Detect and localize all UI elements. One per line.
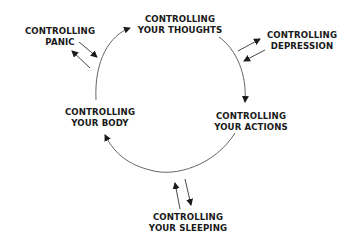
node-line1: CONTROLLING [10,26,110,37]
node-line1: CONTROLLING [201,111,301,122]
node-controlling-panic: CONTROLLING PANIC [10,26,110,47]
node-line1: CONTROLLING [50,107,150,118]
node-line2: YOUR ACTIONS [201,122,301,133]
node-controlling-your-actions: CONTROLLING YOUR ACTIONS [201,111,301,132]
node-line2: YOUR THOUGHTS [130,25,230,36]
node-controlling-your-sleeping: CONTROLLING YOUR SLEEPING [138,212,238,233]
arrow-cycle-to-panic [72,51,90,68]
arc-thoughts-to-actions [219,37,245,102]
node-line2: YOUR SLEEPING [138,223,238,234]
arc-actions-to-body [105,133,235,172]
arrow-depression-to-cycle [244,50,265,61]
node-line2: PANIC [10,37,110,48]
node-line1: CONTROLLING [138,212,238,223]
arrow-cycle-to-sleeping [185,179,191,205]
node-line2: YOUR BODY [50,118,150,129]
node-controlling-depression: CONTROLLING DEPRESSION [256,30,348,51]
node-controlling-your-thoughts: CONTROLLING YOUR THOUGHTS [130,14,230,35]
node-line1: CONTROLLING [130,14,230,25]
node-line2: DEPRESSION [256,41,348,52]
node-line1: CONTROLLING [256,30,348,41]
node-controlling-your-body: CONTROLLING YOUR BODY [50,107,150,128]
arrow-sleeping-to-cycle [175,183,180,209]
